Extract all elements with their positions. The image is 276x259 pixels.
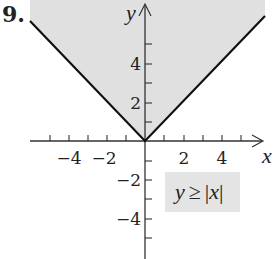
- y-tick-label: 4: [130, 54, 141, 74]
- y-tick-label: −2: [116, 170, 141, 190]
- shaded-region: [30, 0, 265, 141]
- x-tick-label: 2: [179, 148, 190, 168]
- y-tick-label: 2: [130, 93, 141, 113]
- y-tick-label: −4: [116, 209, 141, 229]
- inequality-label: y≥|x|: [173, 179, 223, 204]
- x-axis-label: x: [261, 143, 272, 168]
- x-tick-label: −4: [56, 148, 81, 168]
- x-tick-label: 4: [217, 148, 228, 168]
- x-tick-label: −2: [91, 148, 116, 168]
- y-axis-label: y: [124, 0, 136, 25]
- inequality-graph: 9. −4 −2 2 4 4 2 −2 −4: [0, 0, 276, 259]
- problem-number: 9.: [2, 1, 25, 27]
